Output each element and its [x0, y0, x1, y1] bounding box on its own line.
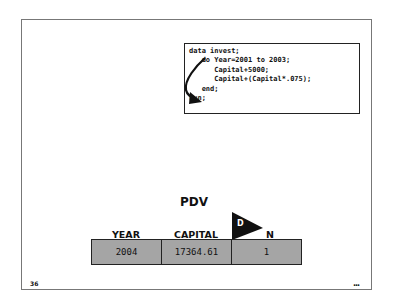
- cell-n: 1: [232, 240, 301, 264]
- cell-capital: 17364.61: [162, 240, 232, 264]
- more-indicator[interactable]: ...: [353, 279, 359, 288]
- pdv-title: PDV: [180, 195, 208, 209]
- cell-year: 2004: [92, 240, 162, 264]
- flag-letter: D: [237, 219, 244, 228]
- pdv-table: 2004 17364.61 1: [91, 239, 302, 265]
- page-number: 36: [30, 280, 38, 287]
